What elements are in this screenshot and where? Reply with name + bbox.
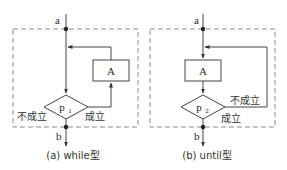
while-condition-label: p: [59, 101, 65, 113]
while-process-label: A: [107, 65, 115, 77]
until-condition-label: p: [196, 101, 202, 113]
while-loop-diagram: a A p 1 成立 不成立 b (a) while型: [13, 14, 138, 161]
while-true-label: 成立: [85, 110, 105, 122]
until-exit-junction: [201, 125, 205, 129]
while-entry-label: a: [55, 14, 60, 26]
flowchart-canvas: a A p 1 成立 不成立 b (a) while型 a A p: [0, 0, 287, 170]
until-false-label: 不成立: [230, 94, 260, 106]
while-exit-junction: [64, 125, 68, 129]
until-process-label: A: [199, 65, 207, 77]
while-caption: (a) while型: [46, 149, 99, 161]
until-true-label: 成立: [221, 112, 241, 124]
until-exit-label: b: [194, 130, 200, 142]
until-entry-label: a: [194, 14, 199, 26]
while-condition-diamond: [44, 95, 88, 119]
while-true-path: [88, 83, 111, 107]
until-loop-diagram: a A p 2 不成立 成立 b (b) until型: [150, 14, 275, 161]
while-loopback-line: [68, 47, 111, 60]
until-entry-junction: [201, 27, 205, 31]
while-false-label: 不成立: [17, 110, 47, 122]
while-condition-subscript: 1: [68, 107, 72, 115]
until-condition-diamond: [181, 95, 225, 119]
until-condition-subscript: 2: [205, 107, 209, 115]
while-exit-label: b: [56, 130, 62, 142]
while-entry-junction: [64, 27, 68, 31]
until-caption: (b) until型: [182, 149, 231, 161]
